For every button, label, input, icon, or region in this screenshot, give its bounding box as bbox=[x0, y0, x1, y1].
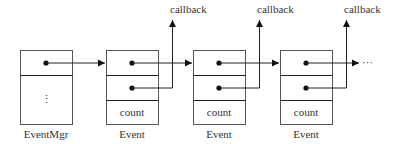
event-count-field: count bbox=[294, 106, 318, 118]
event-label: Event bbox=[206, 128, 232, 140]
event-count-field: count bbox=[207, 106, 231, 118]
event-node-1: count Event bbox=[107, 51, 159, 141]
event-label: Event bbox=[293, 128, 319, 140]
event-label: Event bbox=[119, 128, 145, 140]
event-mgr-ellipsis: ⋮ bbox=[41, 93, 52, 105]
callback-label: callback bbox=[257, 3, 294, 15]
callback-label: callback bbox=[170, 3, 207, 15]
event-list-diagram: ⋮ EventMgr count Event callback count Ev… bbox=[0, 0, 399, 144]
event-mgr-node: ⋮ EventMgr bbox=[21, 51, 73, 141]
event-count-field: count bbox=[120, 106, 144, 118]
callback-label: callback bbox=[344, 3, 381, 15]
event-node-2: count Event bbox=[194, 51, 246, 141]
event-node-3: count Event bbox=[281, 51, 333, 141]
event-mgr-label: EventMgr bbox=[24, 128, 69, 140]
continuation-ellipsis: ··· bbox=[362, 56, 373, 68]
